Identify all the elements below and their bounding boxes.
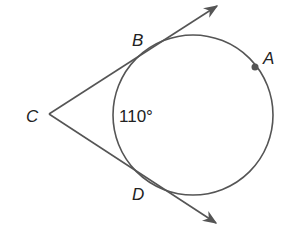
label-d: D	[132, 185, 144, 204]
point-a-dot	[252, 64, 259, 71]
diagram-canvas: B A C D 110°	[0, 0, 296, 234]
tangent-circle-diagram: B A C D 110°	[0, 0, 296, 234]
tangent-ray-cb	[49, 6, 217, 114]
angle-label: 110°	[119, 107, 153, 126]
label-c: C	[26, 107, 39, 126]
tangent-ray-cd	[49, 114, 216, 223]
label-b: B	[132, 31, 143, 50]
label-a: A	[262, 49, 274, 68]
